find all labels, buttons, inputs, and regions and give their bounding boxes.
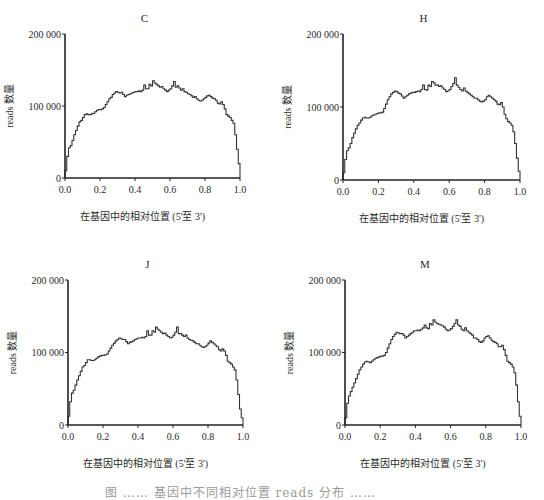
y-axis-label: reads 数量 bbox=[283, 331, 295, 375]
x-tick-label: 0.2 bbox=[374, 431, 387, 442]
x-tick-label: 0.0 bbox=[339, 431, 352, 442]
x-axis-label: 在基因中的相对位置 (5'至 3') bbox=[360, 457, 485, 470]
x-tick-label: 0.4 bbox=[409, 431, 422, 442]
y-tick-label: 0 bbox=[336, 420, 341, 431]
y-tick-label: 200 000 bbox=[309, 275, 342, 286]
figure-caption: 图 …… 基因中不同相对位置 reads 分布 …… bbox=[105, 483, 376, 500]
data-series-line bbox=[345, 320, 521, 425]
y-tick-label: 100 000 bbox=[309, 347, 342, 358]
chart-title: M bbox=[420, 258, 430, 270]
x-tick-label: 0.8 bbox=[480, 431, 493, 442]
x-tick-label: 0.6 bbox=[444, 431, 457, 442]
x-tick-label: 1.0 bbox=[515, 431, 528, 442]
